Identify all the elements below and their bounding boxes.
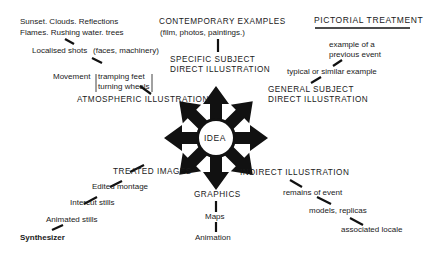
specific-line2: DIRECT ILLUSTRATION bbox=[170, 66, 270, 74]
atmospheric-line-a: Sunset. Clouds. Reflections bbox=[20, 18, 118, 26]
atmospheric-line-b: Flames. Rushing water. trees bbox=[20, 29, 124, 37]
movement-item-turning: turning wheels bbox=[98, 83, 150, 91]
general-item-example: example of a bbox=[329, 41, 375, 49]
indirect-item-locale: associated locale bbox=[341, 226, 402, 234]
treated-heading: TREATED IMAGES bbox=[113, 168, 192, 176]
atmospheric-movement: Movement bbox=[53, 73, 90, 81]
general-item-previous: previous event bbox=[329, 51, 381, 59]
indirect-item-remains: remains of event bbox=[283, 189, 342, 197]
indirect-item-models: models, replicas bbox=[309, 207, 367, 215]
diagram-title: PICTORIAL TREATMENT bbox=[314, 16, 423, 25]
treated-item-montage: Edited montage bbox=[92, 183, 148, 191]
atmospheric-localised: Localised shots bbox=[32, 47, 87, 55]
graphics-heading: GRAPHICS bbox=[194, 191, 241, 199]
general-line2: DIRECT ILLUSTRATION bbox=[268, 96, 368, 104]
contemporary-sub: (film, photos, paintings.) bbox=[160, 29, 245, 37]
idea-label: IDEA bbox=[204, 134, 226, 143]
indirect-heading: INDIRECT ILLUSTRATION bbox=[240, 169, 349, 177]
atmospheric-heading: ATMOSPHERIC ILLUSTRATION bbox=[77, 96, 209, 104]
contemporary-heading: CONTEMPORARY EXAMPLES bbox=[159, 18, 286, 26]
treated-item-animated: Animated stills bbox=[46, 216, 98, 224]
general-line1: GENERAL SUBJECT bbox=[268, 86, 354, 94]
graphics-item-maps: Maps bbox=[205, 213, 225, 221]
treated-item-intercut: Intercut stills bbox=[70, 199, 114, 207]
treated-item-synthesizer: Synthesizer bbox=[20, 234, 65, 242]
atmospheric-localised-note: (faces, machinery) bbox=[93, 47, 159, 55]
graphics-item-animation: Animation bbox=[195, 234, 231, 242]
movement-item-tramping: tramping feet bbox=[98, 73, 145, 81]
general-item-typical: typical or similar example bbox=[287, 68, 377, 76]
specific-line1: SPECIFIC SUBJECT bbox=[170, 56, 255, 64]
